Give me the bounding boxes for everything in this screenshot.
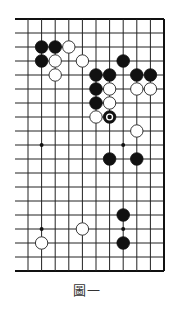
black-stone: [35, 55, 48, 68]
black-stone: [103, 153, 116, 166]
black-stone: [131, 69, 144, 82]
black-stone: [90, 83, 103, 96]
star-point: [40, 227, 44, 231]
white-stone: [144, 83, 156, 95]
star-point: [121, 143, 125, 147]
figure-caption: 圖一: [0, 280, 174, 299]
white-stone: [131, 83, 143, 95]
black-stone: [117, 237, 130, 250]
white-stone: [131, 125, 143, 137]
white-stone: [103, 83, 115, 95]
black-stone: [117, 55, 130, 68]
black-stone: [144, 69, 157, 82]
black-stone: [90, 97, 103, 110]
white-stone: [63, 41, 75, 53]
black-stone-marked: [103, 111, 116, 124]
white-stone: [76, 55, 88, 67]
white-stone: [90, 111, 102, 123]
star-point: [40, 143, 44, 147]
black-stone: [103, 69, 116, 82]
black-stone: [117, 209, 130, 222]
black-stone: [131, 153, 144, 166]
black-stone: [49, 41, 62, 54]
star-point: [121, 227, 125, 231]
white-stone: [35, 237, 47, 249]
go-board-diagram: [0, 0, 174, 311]
black-stone: [90, 69, 103, 82]
white-stone: [76, 223, 88, 235]
white-stone: [103, 97, 115, 109]
black-stone: [35, 41, 48, 54]
white-stone: [49, 69, 61, 81]
white-stone: [49, 55, 61, 67]
